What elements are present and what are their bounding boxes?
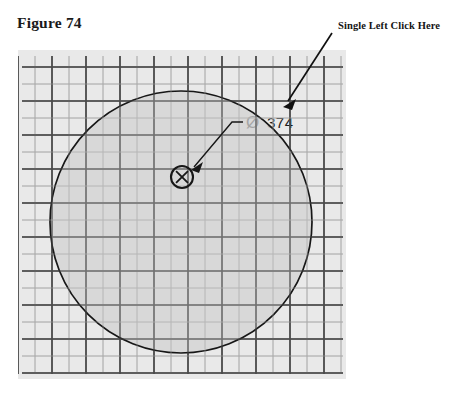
drawing-canvas[interactable] <box>18 50 346 379</box>
instruction-annotation-label: Single Left Click Here <box>338 20 440 31</box>
figure-caption: Figure 74 <box>17 14 82 32</box>
figure-root: Figure 74 Single Left Click Here Ø 374 <box>0 0 464 411</box>
diameter-value-text: 374 <box>267 114 294 131</box>
diameter-symbol: Ø <box>246 113 259 133</box>
